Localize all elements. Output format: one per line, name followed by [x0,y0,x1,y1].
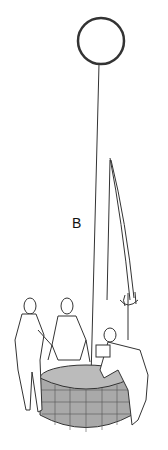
illustration: B [0,0,168,450]
figure-label: B [72,215,81,231]
circle-marker [78,18,124,64]
vertical-pole [91,64,99,378]
well-scene-drawing [0,0,168,450]
person-middle [48,298,90,362]
